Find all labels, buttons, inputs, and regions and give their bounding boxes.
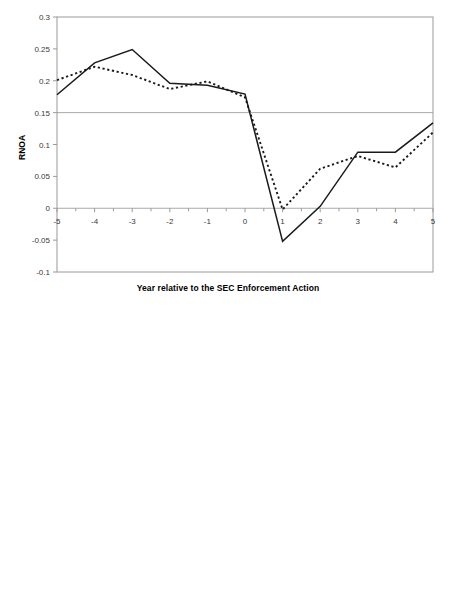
rnoa-plot: 0.30.250.20.150.10.050-0.05-0.1-5-4-3-2-… bbox=[0, 0, 456, 280]
y-tick-label: 0.1 bbox=[39, 141, 51, 150]
rnoa-x-axis-title: Year relative to the SEC Enforcement Act… bbox=[0, 283, 456, 293]
x-tick-label: 0 bbox=[243, 217, 248, 226]
chart-page: 0.30.250.20.150.10.050-0.05-0.1-5-4-3-2-… bbox=[0, 0, 456, 608]
y-tick-label: -0.05 bbox=[32, 236, 51, 245]
acc-chart-block: 0.40.350.30.250.20.150.10.050-0.05-0.1-5… bbox=[0, 310, 456, 608]
x-tick-label: 1 bbox=[280, 217, 285, 226]
x-tick-label: 5 bbox=[431, 217, 436, 226]
rnoa-chart-block: 0.30.250.20.150.10.050-0.05-0.1-5-4-3-2-… bbox=[0, 0, 456, 310]
rnoa-y-axis-title: RNOA bbox=[17, 135, 27, 160]
x-tick-label: -1 bbox=[204, 217, 212, 226]
x-tick-label: -4 bbox=[91, 217, 99, 226]
y-tick-label: -0.1 bbox=[36, 268, 50, 277]
x-tick-label: 3 bbox=[356, 217, 361, 226]
x-tick-label: -5 bbox=[53, 217, 61, 226]
y-tick-label: 0.2 bbox=[39, 77, 51, 86]
x-tick-label: -3 bbox=[129, 217, 137, 226]
x-tick-label: 4 bbox=[393, 217, 398, 226]
x-tick-label: 2 bbox=[318, 217, 323, 226]
series-line-solid bbox=[57, 50, 433, 242]
x-tick-label: -2 bbox=[166, 217, 174, 226]
y-tick-label: 0.3 bbox=[39, 13, 51, 22]
y-tick-label: 0.05 bbox=[34, 172, 50, 181]
plot-frame bbox=[57, 17, 433, 272]
y-tick-label: 0 bbox=[46, 204, 51, 213]
series-line-dotted bbox=[57, 67, 433, 210]
y-tick-label: 0.15 bbox=[34, 109, 50, 118]
y-tick-label: 0.25 bbox=[34, 45, 50, 54]
